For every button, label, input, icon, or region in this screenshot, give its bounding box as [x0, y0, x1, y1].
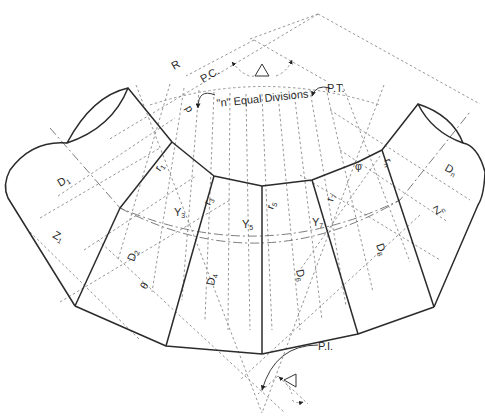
right-cyl-guide	[330, 110, 470, 200]
label-theta: θ	[137, 280, 150, 291]
label-pc: P.C.	[198, 64, 221, 84]
label-r1: r1	[152, 160, 167, 174]
right-pipe-outer-edge	[434, 143, 485, 307]
right-cyl-guide	[300, 175, 440, 260]
label-r5: r5	[264, 199, 279, 211]
miter-joint-1	[120, 142, 172, 208]
miter-joint-1b	[75, 208, 120, 306]
division-line	[294, 92, 322, 320]
label-Z1: Z1	[51, 228, 67, 245]
left-pipe-outer-edge	[5, 143, 75, 306]
division-line	[152, 88, 184, 292]
pi-left-line	[98, 240, 285, 413]
miter-joint-4	[312, 180, 358, 334]
division-line	[262, 94, 272, 330]
label-pt: P.T.	[327, 82, 345, 94]
label-D4: D4	[204, 272, 219, 286]
label-rn: rn	[381, 157, 396, 169]
delta-triangle-icon	[284, 374, 296, 387]
division-line	[182, 90, 199, 300]
label-Dn: Dn	[443, 161, 460, 178]
label-pi: P.I.	[318, 340, 333, 352]
division-line	[246, 94, 250, 330]
label-Y7: Y7	[312, 216, 323, 229]
labels: R P.C. P.T. P.I. "n" Equal Divisions p θ…	[51, 57, 460, 352]
label-R: R	[169, 57, 182, 71]
right-pipe-end-ellipse	[418, 104, 463, 143]
leaders	[198, 60, 330, 403]
label-Zn: Zn	[431, 201, 447, 218]
label-D8: D8	[373, 242, 389, 258]
delta-triangle-icon	[255, 64, 269, 76]
delta-arc-bottom-bottom	[292, 400, 303, 403]
label-D2: D2	[125, 247, 141, 263]
label-phi: φ	[355, 160, 362, 172]
label-r7: r7	[323, 192, 338, 203]
label-Y5: Y5	[242, 218, 253, 231]
pc-curved-leader-icon	[198, 93, 215, 108]
delta-arc-top-right	[276, 60, 292, 76]
division-line	[278, 94, 300, 330]
right-diag-guide	[300, 156, 380, 270]
pipe-centerline-inner	[120, 200, 400, 243]
pt-to-pi-line	[262, 85, 384, 413]
miter-joint-5	[382, 150, 434, 307]
pipe-elbow-diagram: R P.C. P.T. P.I. "n" Equal Divisions p θ…	[0, 0, 485, 416]
division-line	[228, 93, 230, 330]
apex-link	[250, 14, 318, 39]
left-pipe-end-ellipse	[67, 88, 128, 143]
label-p: p	[183, 103, 196, 114]
label-D1: D1	[55, 172, 72, 189]
elbow-outer-edge	[75, 306, 434, 354]
pipe-centerline	[50, 112, 470, 236]
division-line	[326, 88, 373, 292]
label-D6: D6	[293, 268, 308, 282]
